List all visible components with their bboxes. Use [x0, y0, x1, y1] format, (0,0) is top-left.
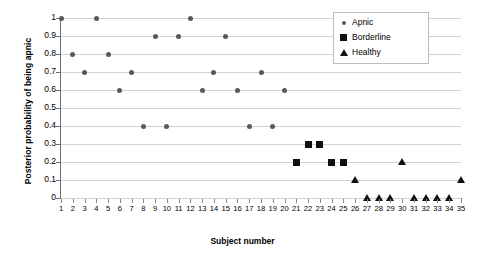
x-tick-label: 35	[454, 205, 468, 213]
x-tick-mark	[143, 199, 144, 203]
legend-label: Apnic	[352, 18, 373, 27]
x-tick-mark	[214, 199, 215, 203]
y-tick-mark	[56, 54, 60, 55]
data-point-apnic	[141, 124, 146, 129]
x-tick-mark	[402, 199, 403, 203]
data-point-apnic	[70, 52, 75, 57]
gridline	[61, 108, 461, 109]
data-point-apnic	[247, 124, 252, 129]
data-point-apnic	[94, 16, 99, 21]
x-tick-mark	[73, 199, 74, 203]
y-tick-mark	[56, 144, 60, 145]
y-tick-label: 0.8	[30, 49, 56, 58]
x-tick-mark	[61, 199, 62, 203]
x-tick-mark	[437, 199, 438, 203]
x-tick-mark	[379, 199, 380, 203]
x-tick-mark	[426, 199, 427, 203]
x-tick-mark	[96, 199, 97, 203]
y-tick-label: 0.1	[30, 175, 56, 184]
y-tick-label: 0.6	[30, 85, 56, 94]
y-tick-mark	[56, 180, 60, 181]
data-point-apnic	[235, 88, 240, 93]
x-tick-mark	[261, 199, 262, 203]
y-tick-label: 0.9	[30, 31, 56, 40]
legend-label: Borderline	[352, 33, 391, 42]
y-tick-label: 0.4	[30, 121, 56, 130]
data-point-borderline	[328, 159, 335, 166]
data-point-apnic	[200, 88, 205, 93]
x-tick-mark	[414, 199, 415, 203]
data-point-apnic	[176, 34, 181, 39]
y-tick-mark	[56, 126, 60, 127]
legend-item-apnic: Apnic	[338, 15, 425, 30]
scatter-chart: Posterior probability of being apnic 00.…	[0, 0, 485, 262]
data-point-apnic	[129, 70, 134, 75]
x-tick-mark	[179, 199, 180, 203]
x-tick-mark	[390, 199, 391, 203]
x-tick-mark	[155, 199, 156, 203]
x-tick-mark	[120, 199, 121, 203]
gridline	[61, 144, 461, 145]
y-tick-mark	[56, 72, 60, 73]
y-tick-mark	[56, 90, 60, 91]
data-point-healthy	[351, 176, 359, 183]
y-tick-label: 0.2	[30, 157, 56, 166]
legend-label: Healthy	[352, 48, 381, 57]
y-tick-label: 0.5	[30, 103, 56, 112]
data-point-borderline	[305, 141, 312, 148]
x-tick-mark	[332, 199, 333, 203]
data-point-apnic	[82, 70, 87, 75]
x-tick-mark	[85, 199, 86, 203]
data-point-apnic	[153, 34, 158, 39]
x-tick-mark	[167, 199, 168, 203]
x-tick-mark	[226, 199, 227, 203]
x-tick-mark	[355, 199, 356, 203]
data-point-borderline	[293, 159, 300, 166]
data-point-healthy	[457, 176, 465, 183]
x-tick-mark	[237, 199, 238, 203]
triangle-marker-icon	[338, 49, 349, 56]
x-axis-title: Subject number	[0, 236, 485, 246]
data-point-apnic	[117, 88, 122, 93]
y-tick-mark	[56, 18, 60, 19]
chart-legend: Apnic Borderline Healthy	[333, 12, 429, 64]
y-tick-label: 0	[30, 193, 56, 202]
x-tick-mark	[296, 199, 297, 203]
square-marker-icon	[338, 34, 349, 41]
gridline	[61, 126, 461, 127]
data-point-healthy	[398, 158, 406, 165]
circle-marker-icon	[338, 21, 349, 25]
data-point-borderline	[316, 141, 323, 148]
y-tick-mark	[56, 108, 60, 109]
data-point-apnic	[223, 34, 228, 39]
y-axis-tick-labels: 00.10.20.30.40.50.60.70.80.91	[28, 0, 56, 216]
legend-item-healthy: Healthy	[338, 45, 425, 60]
data-point-apnic	[270, 124, 275, 129]
data-point-apnic	[164, 124, 169, 129]
y-tick-mark	[56, 36, 60, 37]
y-tick-label: 0.3	[30, 139, 56, 148]
x-tick-mark	[249, 199, 250, 203]
y-tick-label: 1	[30, 13, 56, 22]
x-tick-mark	[285, 199, 286, 203]
x-tick-mark	[132, 199, 133, 203]
x-tick-mark	[202, 199, 203, 203]
data-point-apnic	[259, 70, 264, 75]
data-point-apnic	[106, 52, 111, 57]
x-tick-mark	[190, 199, 191, 203]
x-tick-mark	[461, 199, 462, 203]
x-tick-mark	[343, 199, 344, 203]
x-tick-mark	[320, 199, 321, 203]
data-point-apnic	[282, 88, 287, 93]
x-tick-mark	[449, 199, 450, 203]
x-tick-mark	[367, 199, 368, 203]
legend-item-borderline: Borderline	[338, 30, 425, 45]
y-tick-mark	[56, 162, 60, 163]
data-point-apnic	[188, 16, 193, 21]
y-tick-mark	[56, 198, 60, 199]
x-tick-mark	[308, 199, 309, 203]
y-tick-label: 0.7	[30, 67, 56, 76]
x-tick-mark	[273, 199, 274, 203]
data-point-borderline	[340, 159, 347, 166]
gridline	[61, 180, 461, 181]
